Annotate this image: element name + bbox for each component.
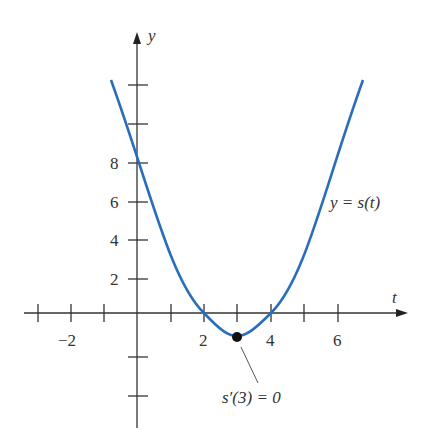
x-tick-label-4: 4 bbox=[266, 332, 275, 349]
t-axis-arrow-icon bbox=[396, 309, 408, 317]
y-ticks bbox=[128, 85, 148, 396]
x-tick-label-neg2: −2 bbox=[58, 332, 76, 349]
critical-point-annotation: s′(3) = 0 bbox=[222, 389, 281, 406]
chart-canvas bbox=[0, 0, 429, 447]
y-axis-arrow-icon bbox=[133, 32, 141, 44]
y-tick-label-8: 8 bbox=[110, 155, 119, 172]
annotation-leader-line bbox=[241, 347, 258, 383]
critical-point-marker bbox=[232, 332, 242, 342]
curve-s-of-t bbox=[111, 80, 363, 336]
y-tick-label-2: 2 bbox=[110, 271, 119, 288]
x-tick-label-2: 2 bbox=[199, 332, 208, 349]
t-axis-label: t bbox=[392, 289, 397, 306]
x-tick-label-6: 6 bbox=[333, 332, 342, 349]
y-tick-label-6: 6 bbox=[110, 194, 119, 211]
curve-label: y = s(t) bbox=[330, 194, 380, 211]
y-tick-label-4: 4 bbox=[110, 232, 119, 249]
y-axis-label: y bbox=[148, 27, 156, 44]
